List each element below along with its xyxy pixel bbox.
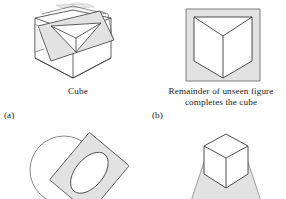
figure-c-illustration xyxy=(18,130,138,199)
sublabel-a: (a) xyxy=(4,110,14,121)
cube-with-panel-svg xyxy=(18,2,136,88)
gray-frame-inside-corner-svg xyxy=(176,4,286,88)
caption-cube: Cube xyxy=(28,86,128,97)
figure-b-illustration xyxy=(176,4,286,88)
caption-remainder-line1: Remainder of unseen figure xyxy=(156,86,286,97)
box-and-trapezoid-svg xyxy=(176,130,286,199)
figure-d-illustration xyxy=(176,130,286,199)
cropped-fragment-top xyxy=(56,3,94,9)
figure-page: Cube Remainder of unseen figure complete… xyxy=(0,0,286,199)
figure-a-illustration xyxy=(18,2,136,88)
sublabel-b: (b) xyxy=(152,110,163,121)
caption-remainder: Remainder of unseen figure completes the… xyxy=(156,86,286,108)
circle-and-tilted-rectangle-svg xyxy=(18,130,138,199)
caption-remainder-line2: completes the cube xyxy=(156,97,286,108)
